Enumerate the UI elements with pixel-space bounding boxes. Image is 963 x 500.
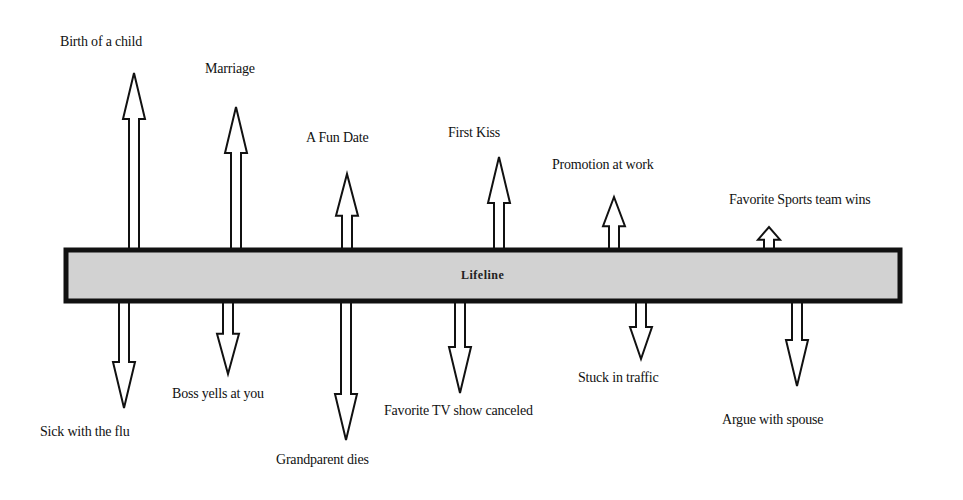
negative-event-label: Boss yells at you — [172, 386, 264, 402]
lifeline-diagram: Lifeline Birth of a childMarriageA Fun D… — [0, 0, 963, 500]
positive-event-label: A Fun Date — [306, 130, 369, 146]
negative-event-label: Grandparent dies — [276, 452, 369, 468]
down-arrow-icon — [217, 301, 239, 374]
down-arrow-icon — [786, 301, 808, 386]
down-arrow-icon — [449, 301, 471, 393]
up-arrow-icon — [225, 107, 247, 250]
positive-event-label: Birth of a child — [60, 34, 142, 50]
positive-event-label: Promotion at work — [552, 157, 654, 173]
negative-event-label: Argue with spouse — [722, 412, 823, 428]
negative-event-label: Favorite TV show canceled — [384, 403, 533, 419]
up-arrow-icon — [488, 157, 510, 250]
up-arrow-icon — [758, 227, 780, 250]
negative-event-label: Stuck in traffic — [578, 370, 659, 386]
positive-event-label: Marriage — [205, 61, 255, 77]
up-arrow-icon — [336, 174, 358, 250]
negative-event-label: Sick with the flu — [40, 424, 130, 440]
down-arrow-icon — [630, 301, 652, 359]
down-arrow-icon — [335, 301, 357, 440]
positive-event-label: Favorite Sports team wins — [729, 192, 871, 208]
positive-event-label: First Kiss — [448, 125, 500, 141]
up-arrow-icon — [123, 73, 145, 250]
down-arrow-icon — [113, 301, 135, 408]
lifeline-label: Lifeline — [461, 268, 504, 283]
up-arrow-icon — [603, 197, 625, 250]
